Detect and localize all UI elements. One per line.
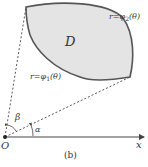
ray-alpha (5, 77, 130, 137)
curve-outer-prefix: r=φ (109, 12, 125, 21)
origin-point (3, 135, 7, 139)
angle-alpha-label: α (35, 126, 40, 134)
origin-label: O (1, 141, 9, 151)
angle-beta-label: β (15, 113, 20, 122)
polar-region-diagram: D r=φ2(θ) r=φ1(θ) β α O x (b) (0, 0, 148, 167)
region-label: D (65, 35, 75, 48)
angle-alpha-arc (31, 125, 33, 136)
angle-beta-arc (7, 125, 16, 131)
curve-outer-suffix: (θ) (129, 12, 140, 21)
figure-caption: (b) (64, 151, 77, 160)
curve-outer-label: r=φ2(θ) (109, 13, 140, 22)
curve-inner-label: r=φ1(θ) (30, 73, 61, 82)
x-axis-label: x (136, 140, 142, 150)
curve-inner-prefix: r=φ (30, 72, 46, 81)
curve-inner-suffix: (θ) (50, 72, 61, 81)
diagram-canvas (0, 0, 148, 167)
